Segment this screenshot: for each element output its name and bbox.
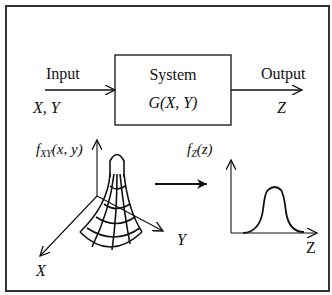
joint-pdf-surface [80,155,142,251]
input-variables: X, Y [32,99,62,116]
output-pdf-curve [243,187,304,233]
x-axis-label: X [35,262,47,279]
y-axis-3d [97,196,163,231]
output-variable: Z [277,99,287,116]
joint-pdf-plot: fXY(x, y) X Y [35,140,188,279]
diagram-canvas: Input X, Y System G(X, Y) Output Z fXY(x… [0,0,332,295]
output-pdf-label: fZ(z) [187,141,213,159]
z-axis-label: Z [306,239,316,256]
system-block: System G(X, Y) [115,55,231,125]
x-axis-3d [40,196,97,256]
output-pdf-plot: fZ(z) Z [187,141,317,256]
output-group: Output Z [231,65,306,116]
input-group: Input X, Y [32,65,115,116]
y-axis-label: Y [177,231,188,248]
joint-pdf-label: fXY(x, y) [36,141,83,159]
system-label: System [149,66,197,84]
system-function: G(X, Y) [149,94,198,112]
output-label: Output [261,65,306,83]
input-label: Input [46,65,80,83]
